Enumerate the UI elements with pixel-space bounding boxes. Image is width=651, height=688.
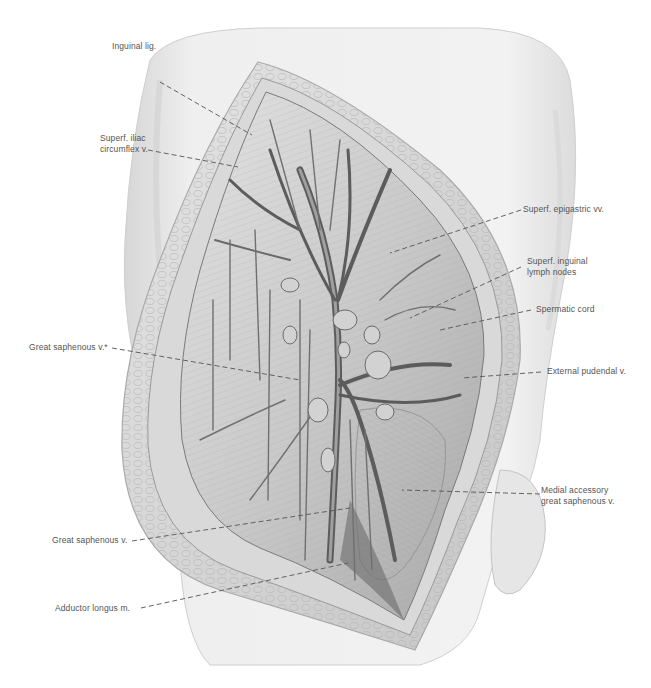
label-medial-accessory-great-saphenous-v: Medial accessory great saphenous v.: [541, 485, 614, 507]
label-line: circumflex v.: [100, 144, 148, 155]
label-great-saphenous-v: Great saphenous v.: [52, 535, 127, 546]
label-external-pudendal-v: External pudendal v.: [547, 366, 626, 377]
label-inguinal-lig: Inguinal lig.: [112, 41, 156, 52]
label-line: great saphenous v.: [541, 496, 614, 507]
label-superf-epigastric-vv: Superf. epigastric vv.: [523, 204, 604, 215]
label-spermatic-cord: Spermatic cord: [536, 304, 595, 315]
anatomical-illustration: Inguinal lig. Superf. iliac circumflex v…: [0, 0, 651, 688]
label-superf-inguinal-lymph-nodes: Superf. inguinal lymph nodes: [527, 256, 588, 278]
label-line: Medial accessory: [541, 485, 614, 496]
label-superf-iliac-circumflex-v: Superf. iliac circumflex v.: [100, 133, 148, 155]
label-line: lymph nodes: [527, 267, 588, 278]
label-adductor-longus-m: Adductor longus m.: [55, 603, 130, 614]
label-line: Superf. inguinal: [527, 256, 588, 267]
label-line: Superf. iliac: [100, 133, 148, 144]
label-great-saphenous-v-star: Great saphenous v.*: [29, 342, 108, 353]
